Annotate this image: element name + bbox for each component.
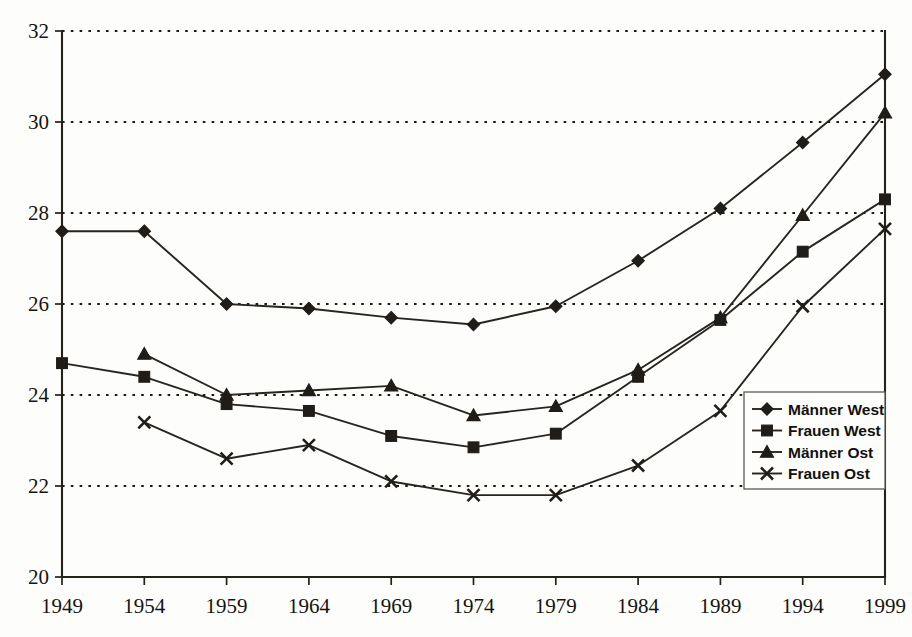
x-tick-label-1989: 1989 <box>699 594 741 618</box>
x-tick-label-1979: 1979 <box>535 594 577 618</box>
x-tick-label-1994: 1994 <box>782 594 825 618</box>
marker-0-5 <box>467 318 479 330</box>
y-axis <box>55 31 62 577</box>
y-tick-label-28: 28 <box>28 201 49 225</box>
series-2 <box>138 106 892 420</box>
marker-1-0 <box>57 358 68 369</box>
x-tick-label-1984: 1984 <box>617 594 660 618</box>
x-tick-label-1959: 1959 <box>206 594 248 618</box>
marker-0-6 <box>550 300 562 312</box>
marker-0-4 <box>385 311 397 323</box>
series-line-2 <box>144 113 885 416</box>
y-tick-label-20: 20 <box>28 565 49 589</box>
y-tick-label-26: 26 <box>28 292 49 316</box>
marker-2-3 <box>385 379 398 391</box>
x-tick-label-1949: 1949 <box>41 594 83 618</box>
marker-1-5 <box>468 442 479 453</box>
x-tick-labels: 1949195419591964196919741979198419891994… <box>41 594 906 618</box>
marker-2-9 <box>878 106 891 118</box>
legend-label-0: Männer West <box>788 401 884 418</box>
chart-canvas: 20222426283032 1949195419591964196919741… <box>0 0 912 637</box>
x-tick-label-1954: 1954 <box>123 594 166 618</box>
y-tick-labels: 20222426283032 <box>28 19 50 589</box>
marker-1-6 <box>550 428 561 439</box>
y-tick-label-30: 30 <box>28 110 49 134</box>
marker-1-4 <box>386 431 397 442</box>
x-axis <box>62 31 885 585</box>
x-tick-label-1999: 1999 <box>864 594 906 618</box>
marker-1-1 <box>139 371 150 382</box>
x-tick-label-1974: 1974 <box>453 594 496 618</box>
legend-label-3: Frauen Ost <box>788 465 870 482</box>
legend-label-2: Männer Ost <box>788 444 873 461</box>
marker-0-3 <box>303 302 315 314</box>
y-tick-label-22: 22 <box>28 474 49 498</box>
x-tick-label-1964: 1964 <box>288 594 331 618</box>
line-chart: 20222426283032 1949195419591964196919741… <box>0 0 912 637</box>
marker-0-7 <box>632 255 644 267</box>
legend-label-1: Frauen West <box>788 422 881 439</box>
y-tick-label-32: 32 <box>28 19 49 43</box>
marker-1-9 <box>797 246 808 257</box>
y-tick-label-24: 24 <box>28 383 50 407</box>
marker-1-3 <box>304 406 315 417</box>
marker-2-5 <box>549 400 562 412</box>
legend-marker-square <box>762 425 773 436</box>
series-0 <box>56 68 891 331</box>
marker-1-10 <box>880 194 891 205</box>
x-tick-label-1969: 1969 <box>370 594 412 618</box>
legend: Männer WestFrauen WestMänner OstFrauen O… <box>744 392 885 489</box>
marker-2-6 <box>632 363 645 375</box>
marker-2-0 <box>138 347 151 359</box>
marker-0-0 <box>56 225 68 237</box>
